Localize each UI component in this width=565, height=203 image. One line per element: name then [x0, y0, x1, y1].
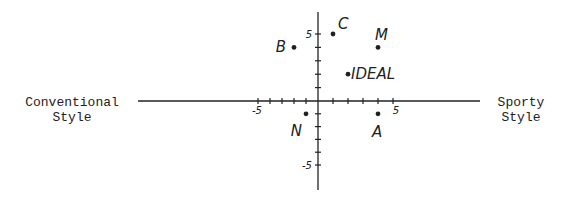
point-marker [331, 32, 336, 37]
x-axis-label-right: Sporty Style [486, 95, 556, 125]
y-tick-label: -5 [302, 160, 312, 171]
point-m: M [375, 26, 388, 49]
point-label: C [338, 15, 349, 33]
data-points: CMBIDEALNA [276, 15, 395, 141]
point-marker [376, 45, 381, 50]
point-label: IDEAL [351, 65, 395, 83]
point-marker [376, 111, 381, 116]
y-tick-label: 5 [306, 29, 312, 40]
point-marker [292, 45, 297, 50]
tick-labels: -555-5 [252, 29, 399, 171]
x-axis-label-left: Conventional Style [12, 95, 132, 125]
point-label: B [276, 38, 286, 56]
point-label: A [371, 123, 382, 141]
x-tick-label: 5 [393, 105, 399, 116]
point-marker [304, 111, 309, 116]
point-ideal: IDEAL [346, 65, 395, 83]
point-marker [346, 72, 351, 77]
point-label: N [291, 122, 302, 140]
point-n: N [291, 111, 309, 139]
point-label: M [375, 26, 388, 44]
x-tick-label: -5 [252, 105, 262, 116]
point-a: A [371, 111, 382, 140]
point-c: C [331, 15, 349, 36]
point-b: B [276, 38, 297, 56]
